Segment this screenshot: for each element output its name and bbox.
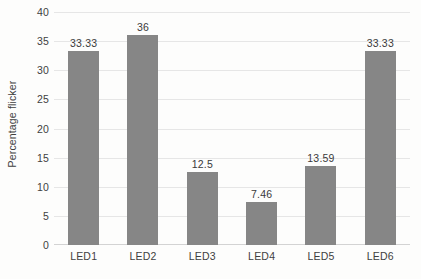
bar-value-label: 33.33 [70,37,97,49]
y-tick-label: 25 [37,93,49,105]
x-tick-label: LED5 [291,250,350,270]
bar-chart: Percentage flicker 40 35 30 25 20 15 10 … [0,0,421,279]
x-tick-label: LED6 [351,250,410,270]
bar-series: 33.33 36 12.5 7.46 13.59 33.33 [54,12,410,245]
bar-slot: 36 [113,12,172,245]
bar [68,51,99,245]
y-axis-tick-labels: 40 35 30 25 20 15 10 5 0 [22,0,52,247]
bar-value-label: 36 [137,21,149,33]
bar-slot: 12.5 [173,12,232,245]
bar [187,172,218,245]
y-axis-title: Percentage flicker [2,0,22,247]
y-tick-label: 30 [37,64,49,76]
y-axis-title-text: Percentage flicker [6,80,18,167]
x-axis-tick-labels: LED1 LED2 LED3 LED4 LED5 LED6 [54,250,410,270]
bar-slot: 33.33 [351,12,410,245]
bar [365,51,396,245]
bar-slot: 7.46 [232,12,291,245]
y-tick-label: 40 [37,6,49,18]
bar [127,35,158,245]
y-tick-label: 15 [37,152,49,164]
y-tick-label: 35 [37,35,49,47]
bar-slot: 33.33 [54,12,113,245]
bar-value-label: 7.46 [251,188,272,200]
plot-area: 33.33 36 12.5 7.46 13.59 33.33 [54,12,410,245]
y-tick-label: 5 [43,210,49,222]
y-tick-label: 20 [37,123,49,135]
bar-value-label: 33.33 [367,37,394,49]
bar [246,202,277,245]
bar [305,166,336,245]
bar-value-label: 12.5 [192,158,213,170]
x-tick-label: LED1 [54,250,113,270]
y-tick-label: 10 [37,181,49,193]
x-tick-label: LED3 [173,250,232,270]
y-tick-label: 0 [43,239,49,251]
bar-slot: 13.59 [291,12,350,245]
x-tick-label: LED4 [232,250,291,270]
bar-value-label: 13.59 [307,152,334,164]
x-tick-label: LED2 [113,250,172,270]
